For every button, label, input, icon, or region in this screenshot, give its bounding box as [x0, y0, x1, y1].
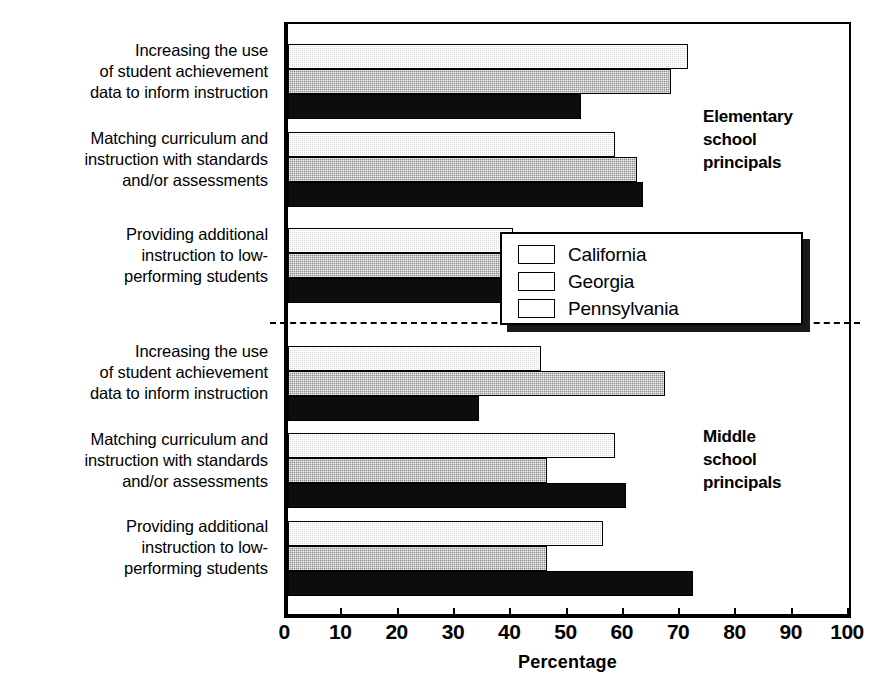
x-tick-10: [340, 608, 342, 618]
bar-california-group-1: [288, 132, 615, 157]
bar-georgia-group-2: [288, 253, 502, 278]
bar-pennsylvania-group-0: [288, 94, 581, 119]
category-label-2-line3: performing students: [8, 266, 268, 287]
panel-note-elementary-line1: Elementary: [703, 105, 793, 128]
grouped-bar-chart: Increasing the use of student achievemen…: [0, 0, 870, 691]
bar-pennsylvania-group-5: [288, 571, 693, 596]
category-label-3-line2: of student achievement: [8, 362, 268, 383]
x-tick-label-70: 70: [648, 620, 708, 644]
legend-item-georgia: Georgia: [518, 268, 801, 294]
panel-note-middle-line2: school: [703, 448, 781, 471]
category-label-3-line3: data to inform instruction: [8, 383, 268, 404]
x-tick-label-0: 0: [254, 620, 314, 644]
category-label-2-line2: instruction to low-: [8, 245, 268, 266]
category-label-5-line2: instruction to low-: [8, 537, 268, 558]
panel-note-elementary-line3: principals: [703, 151, 793, 174]
legend-item-california: California: [518, 241, 801, 267]
x-tick-label-80: 80: [704, 620, 764, 644]
x-tick-50: [566, 608, 568, 618]
category-label-2-line1: Providing additional: [8, 224, 268, 245]
category-label-3: Increasing the use of student achievemen…: [8, 341, 268, 404]
bar-georgia-group-5: [288, 546, 547, 571]
bar-california-group-3: [288, 346, 541, 371]
legend-label-california: California: [568, 245, 646, 264]
category-label-4-line1: Matching curriculum and: [8, 429, 268, 450]
panel-note-middle-line1: Middle: [703, 425, 781, 448]
x-tick-90: [791, 608, 793, 618]
x-axis-title: Percentage: [284, 652, 851, 673]
chart-legend: California Georgia Pennsylvania: [500, 232, 803, 325]
bar-pennsylvania-group-1: [288, 182, 643, 207]
category-label-4: Matching curriculum and instruction with…: [8, 429, 268, 492]
bar-georgia-group-4: [288, 458, 547, 483]
x-tick-70: [678, 608, 680, 618]
category-label-4-line3: and/or assessments: [8, 471, 268, 492]
category-label-1-line3: and/or assessments: [8, 170, 268, 191]
x-tick-40: [509, 608, 511, 618]
x-tick-label-40: 40: [479, 620, 539, 644]
legend-item-pennsylvania: Pennsylvania: [518, 295, 801, 321]
bar-pennsylvania-group-3: [288, 396, 479, 421]
bar-california-group-5: [288, 521, 603, 546]
category-label-3-line1: Increasing the use: [8, 341, 268, 362]
x-tick-20: [397, 608, 399, 618]
legend-label-georgia: Georgia: [568, 272, 634, 291]
panel-note-middle-line3: principals: [703, 471, 781, 494]
bar-georgia-group-3: [288, 371, 665, 396]
category-label-4-line2: instruction with standards: [8, 450, 268, 471]
x-tick-80: [734, 608, 736, 618]
black-swatch-icon: [518, 299, 555, 318]
bar-california-group-4: [288, 433, 615, 458]
category-label-5-line1: Providing additional: [8, 516, 268, 537]
panel-note-middle: Middle school principals: [703, 425, 781, 494]
light-checker-swatch-icon: [518, 245, 555, 264]
x-tick-100: [847, 608, 849, 618]
bar-georgia-group-1: [288, 157, 637, 182]
x-tick-label-90: 90: [761, 620, 821, 644]
category-label-1-line2: instruction with standards: [8, 149, 268, 170]
legend-label-pennsylvania: Pennsylvania: [568, 299, 679, 318]
x-tick-label-30: 30: [423, 620, 483, 644]
x-tick-label-50: 50: [536, 620, 596, 644]
bar-california-group-0: [288, 44, 688, 69]
bar-georgia-group-0: [288, 69, 671, 94]
x-tick-label-20: 20: [367, 620, 427, 644]
panel-note-elementary-line2: school: [703, 128, 793, 151]
x-tick-label-10: 10: [310, 620, 370, 644]
x-tick-label-100: 100: [817, 620, 870, 644]
category-label-0-line3: data to inform instruction: [8, 82, 268, 103]
x-tick-0: [284, 608, 286, 618]
bar-california-group-2: [288, 228, 513, 253]
category-label-2: Providing additional instruction to low-…: [8, 224, 268, 287]
category-label-0: Increasing the use of student achievemen…: [8, 40, 268, 103]
panel-note-elementary: Elementary school principals: [703, 105, 793, 174]
x-tick-label-60: 60: [592, 620, 652, 644]
category-label-0-line2: of student achievement: [8, 61, 268, 82]
medium-checker-swatch-icon: [518, 272, 555, 291]
category-label-1: Matching curriculum and instruction with…: [8, 128, 268, 191]
x-tick-30: [453, 608, 455, 618]
category-label-5-line3: performing students: [8, 558, 268, 579]
category-label-0-line1: Increasing the use: [8, 40, 268, 61]
category-label-1-line1: Matching curriculum and: [8, 128, 268, 149]
x-tick-60: [622, 608, 624, 618]
category-label-5: Providing additional instruction to low-…: [8, 516, 268, 579]
bar-pennsylvania-group-4: [288, 483, 626, 508]
